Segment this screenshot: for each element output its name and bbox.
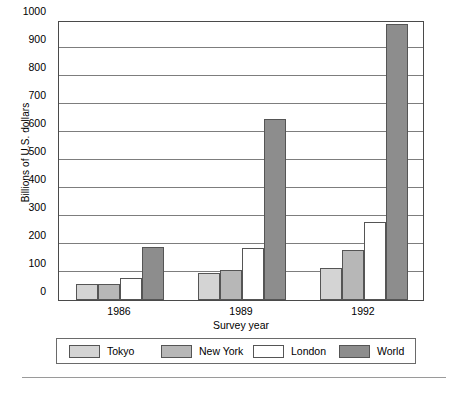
bar-world-1992 (386, 24, 408, 300)
bar-world-1986 (142, 247, 164, 300)
gridline-900 (59, 47, 423, 48)
y-tick-label-900: 900 (0, 33, 46, 44)
legend-label-tokyo: Tokyo (107, 345, 134, 357)
legend-swatch-newyork (161, 345, 192, 358)
bar-new-york-1992 (342, 250, 364, 300)
legend-label-london: London (291, 345, 326, 357)
gridline-400 (59, 187, 423, 188)
y-tick-label-700: 700 (0, 89, 46, 100)
x-tick-label-1986: 1986 (89, 305, 149, 317)
y-tick-label-800: 800 (0, 61, 46, 72)
y-tick-label-300: 300 (0, 201, 46, 212)
bar-new-york-1986 (98, 284, 120, 300)
gridline-700 (59, 103, 423, 104)
y-tick-label-100: 100 (0, 257, 46, 268)
plot-area (58, 21, 424, 301)
bar-world-1989 (264, 119, 286, 300)
x-tick-label-1989: 1989 (211, 305, 271, 317)
legend-item-world[interactable]: World (339, 339, 404, 363)
gridline-300 (59, 215, 423, 216)
bar-london-1989 (242, 248, 264, 300)
bar-tokyo-1992 (320, 268, 342, 300)
legend-swatch-world (339, 345, 370, 358)
legend-label-world: World (377, 345, 404, 357)
gridline-800 (59, 75, 423, 76)
legend-item-new-york[interactable]: New York (161, 339, 243, 363)
y-tick-label-200: 200 (0, 229, 46, 240)
bar-tokyo-1986 (76, 284, 98, 300)
legend-item-tokyo[interactable]: Tokyo (69, 339, 134, 363)
gridline-600 (59, 131, 423, 132)
legend-item-london[interactable]: London (253, 339, 326, 363)
footer-divider (22, 377, 446, 378)
x-axis-title: Survey year (58, 319, 424, 331)
gridline-500 (59, 159, 423, 160)
plot-inner (59, 22, 423, 300)
x-tick-label-1992: 1992 (333, 305, 393, 317)
y-axis-tick-labels: 01002003004005006007008009001000 (0, 21, 52, 301)
bar-new-york-1989 (220, 270, 242, 300)
y-tick-label-500: 500 (0, 145, 46, 156)
legend-swatch-london (253, 345, 284, 358)
bar-tokyo-1989 (198, 273, 220, 300)
y-tick-label-1000: 1000 (0, 5, 46, 16)
bar-chart-figure: Billions of U.S. dollars 010020030040050… (0, 0, 468, 395)
bar-london-1986 (120, 278, 142, 300)
legend-swatch-tokyo (69, 345, 100, 358)
y-tick-label-0: 0 (0, 285, 46, 296)
bar-london-1992 (364, 222, 386, 300)
legend: TokyoNew YorkLondonWorld (56, 338, 416, 364)
y-tick-label-600: 600 (0, 117, 46, 128)
y-tick-label-400: 400 (0, 173, 46, 184)
legend-label-newyork: New York (199, 345, 243, 357)
